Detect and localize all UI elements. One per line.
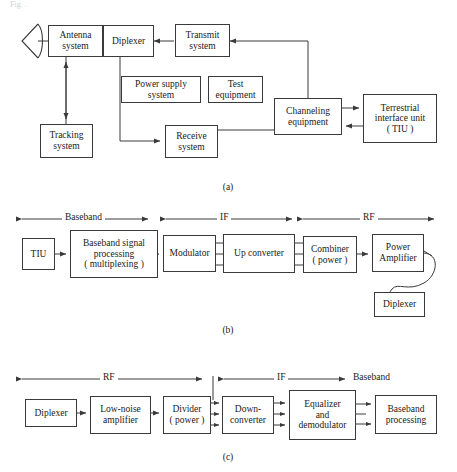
block-terrestrial-interface-unit[interactable]: Terrestrialinterface unit( TIU ): [363, 94, 437, 143]
caption-c: (c): [198, 452, 258, 462]
block-modulator-label: Modulator: [167, 248, 211, 259]
block-receive-system[interactable]: Receivesystem: [165, 125, 218, 158]
block-modulator[interactable]: Modulator: [163, 235, 216, 272]
block-diplexer-a[interactable]: Diplexer: [103, 25, 154, 57]
block-test-equipment[interactable]: Testequipment: [208, 76, 263, 103]
block-combiner[interactable]: Combiner( power ): [303, 236, 357, 273]
block-transmit-system-label: Transmitsystem: [184, 30, 222, 51]
block-low-noise-amplifier[interactable]: Low-noiseamplifier: [90, 396, 151, 434]
block-channeling-equipment[interactable]: Channelingequipment: [274, 98, 342, 135]
block-equalizer-demodulator[interactable]: Equalizeranddemodulator: [289, 390, 356, 440]
section-label-if-b: IF: [217, 212, 231, 222]
block-up-converter[interactable]: Up converter: [223, 234, 295, 273]
section-label-if-c: IF: [274, 372, 288, 382]
block-channeling-equipment-label: Channelingequipment: [284, 106, 332, 127]
block-test-equipment-label: Testequipment: [213, 79, 257, 100]
block-antenna-system-label: Antennasystem: [57, 30, 93, 51]
block-power-amplifier-label: PowerAmplifier: [377, 242, 418, 263]
block-transmit-system[interactable]: Transmitsystem: [175, 24, 230, 57]
block-diplexer-c[interactable]: Diplexer: [25, 399, 77, 427]
section-label-baseband-b: Baseband: [62, 212, 105, 222]
block-tiu-b-label: TIU: [29, 249, 49, 260]
block-diplexer-a-label: Diplexer: [110, 36, 147, 47]
block-divider-label: Divider( power ): [168, 404, 207, 425]
block-power-supply-system[interactable]: Power supplysystem: [121, 76, 201, 103]
block-diplexer-c-label: Diplexer: [32, 408, 69, 419]
block-down-converter[interactable]: Down-converter: [222, 396, 274, 434]
figure-canvas: Fig. .: [0, 0, 457, 472]
block-diplexer-b-label: Diplexer: [381, 299, 418, 310]
block-receive-system-label: Receivesystem: [174, 131, 209, 152]
caption-b: (b): [198, 325, 258, 335]
block-down-converter-label: Down-converter: [228, 404, 268, 425]
block-up-converter-label: Up converter: [232, 248, 286, 259]
block-baseband-signal-processing-label: Baseband signalprocessing( multiplexing …: [81, 238, 147, 270]
section-label-rf-b: RF: [360, 212, 378, 222]
section-label-baseband-c: Baseband: [350, 372, 393, 382]
block-divider[interactable]: Divider( power ): [163, 396, 211, 434]
block-tiu-b[interactable]: TIU: [22, 238, 55, 270]
block-baseband-processing[interactable]: Basebandprocessing: [375, 395, 437, 434]
section-label-rf-c: RF: [100, 372, 118, 382]
block-diplexer-b[interactable]: Diplexer: [374, 292, 425, 317]
block-tracking-system[interactable]: Trackingsystem: [40, 124, 93, 158]
block-antenna-system[interactable]: Antennasystem: [48, 25, 103, 57]
block-tracking-system-label: Trackingsystem: [48, 130, 86, 151]
block-terrestrial-interface-unit-label: Terrestrialinterface unit( TIU ): [373, 103, 427, 135]
block-baseband-signal-processing[interactable]: Baseband signalprocessing( multiplexing …: [70, 230, 158, 278]
block-combiner-label: Combiner( power ): [309, 244, 351, 265]
caption-a: (a): [198, 182, 258, 192]
antenna-dish-icon: [22, 24, 48, 58]
block-low-noise-amplifier-label: Low-noiseamplifier: [98, 404, 143, 425]
block-equalizer-demodulator-label: Equalizeranddemodulator: [296, 399, 348, 431]
block-power-supply-system-label: Power supplysystem: [133, 79, 189, 100]
block-power-amplifier[interactable]: PowerAmplifier: [372, 234, 424, 272]
block-baseband-processing-label: Basebandprocessing: [384, 404, 429, 425]
